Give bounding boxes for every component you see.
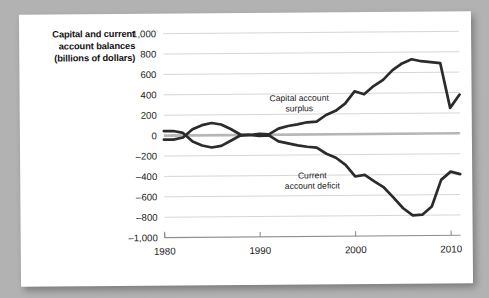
y-axis-tick-label: 800 (140, 49, 156, 60)
y-axis-tick-label: 1,000 (132, 28, 156, 39)
chart-plot-area: 1,0008006004002000–200–400–600–800–1,000… (115, 23, 463, 271)
figure-card: Capital and current account balances (bi… (19, 11, 473, 287)
y-axis-tick-label: 200 (141, 110, 157, 121)
y-axis-tick-label: –600 (136, 191, 157, 202)
y-axis-tick-label: 400 (141, 89, 157, 100)
y-axis-tick-label: –800 (136, 212, 157, 223)
line-chart-svg: 1,0008006004002000–200–400–600–800–1,000… (115, 23, 463, 271)
x-axis-tick-label: 2010 (440, 243, 462, 254)
annotation-label: Capital accountsurplus (270, 93, 330, 114)
x-axis-tick-labels: 1980199020002010 (154, 243, 463, 256)
x-axis-tick-label: 1980 (154, 246, 176, 257)
y-axis-tick-label: –200 (136, 150, 157, 161)
data-lines-group (163, 59, 460, 217)
x-axis-group (165, 229, 461, 237)
y-axis-tick-label: 0 (152, 130, 157, 141)
y-axis-tick-label: –400 (136, 171, 157, 182)
y-axis-tick-label: –1,000 (128, 232, 157, 243)
x-axis-tick-label: 2000 (345, 244, 367, 255)
x-axis-line (165, 235, 461, 237)
gridline (164, 113, 460, 115)
x-axis-tick-label: 1990 (249, 245, 271, 256)
gridline (164, 195, 460, 197)
zero-line (164, 133, 460, 135)
gridline (163, 52, 459, 54)
y-axis-tick-labels: 1,0008006004002000–200–400–600–800–1,000 (127, 28, 158, 243)
gridline (164, 154, 460, 156)
y-axis-tick-label: 600 (140, 69, 156, 80)
gridline (163, 72, 459, 74)
gridline (163, 31, 459, 33)
annotation-label: Currentaccount deficit (285, 170, 341, 191)
